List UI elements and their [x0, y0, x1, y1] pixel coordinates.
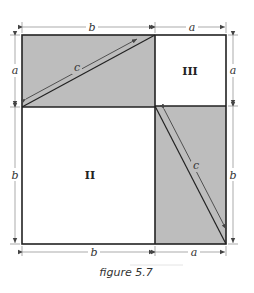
label-bottom-a: a	[191, 246, 198, 259]
label-right-b: b	[229, 169, 236, 182]
label-bottom-b: b	[90, 246, 97, 259]
region-label-ii: II	[85, 169, 95, 182]
diag-label-bottom: c	[193, 159, 199, 172]
label-left-a: a	[12, 64, 19, 77]
diagram-canvas: c c b a a b a b b a III II figure 5.7	[0, 0, 254, 293]
region-label-iii: III	[182, 65, 197, 78]
label-top-b: b	[88, 21, 95, 34]
figure-caption: figure 5.7	[99, 266, 152, 279]
diag-label-top: c	[74, 61, 80, 74]
label-right-a: a	[230, 64, 237, 77]
label-top-a: a	[189, 21, 196, 34]
label-left-b: b	[11, 169, 18, 182]
